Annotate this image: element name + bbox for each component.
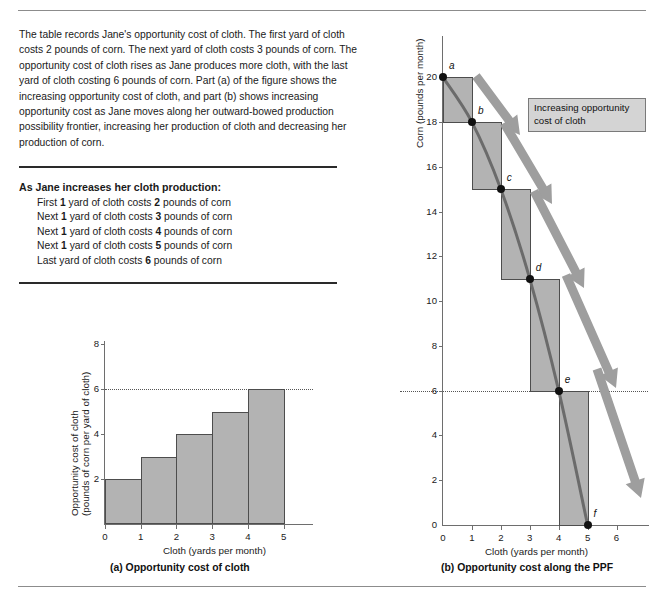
caption-chart-b: (b) Opportunity cost along the PPF [441,562,613,573]
chart-a-bar [105,479,142,524]
opportunity-cost-list: As Jane increases her cloth production: … [19,180,349,269]
divider-above-cost-list [19,166,337,168]
top-divider-rule [18,10,646,11]
chart-b-increasing-cost-arrow [530,189,585,288]
chart-a-bar [212,412,249,525]
cost-list-item: Next 1 yard of cloth costs 5 pounds of c… [19,239,349,254]
chart-a-y-tick-label: 8 [83,338,99,349]
bottom-divider-rule [18,586,646,587]
arrow-icon [530,189,585,288]
chart-b-increasing-cost-arrow [593,368,645,499]
chart-a-x-axis-title: Cloth (yards per month) [163,545,266,556]
chart-a-x-tick-label: 2 [166,531,186,542]
chart-a-x-tick [212,525,213,529]
caption-chart-a: (a) Opportunity cost of cloth [110,562,250,573]
chart-b-increasing-cost-arrow [562,273,618,388]
chart-a-x-axis [105,524,313,525]
chart-b-ppf-point [555,387,563,395]
chart-a-bar [176,434,213,524]
chart-a-y-axis-title-line2: (pounds of corn per yard of cloth) [80,372,91,516]
chart-a-x-tick [105,525,106,529]
chart-a-x-tick [141,525,142,529]
chart-a-opportunity-cost-bar-chart: 2468012345Cloth (yards per month)Opportu… [60,332,360,547]
chart-b-increasing-cost-arrow [500,121,552,204]
chart-b-ppf-point-label: d [536,262,542,273]
chart-a-x-tick-label: 5 [274,531,294,542]
cost-list-item: Next 1 yard of cloth costs 3 pounds of c… [19,210,349,225]
chart-b-y-axis-title: Corn (pounds per month) [414,39,425,148]
chart-b-ppf-point [526,275,534,283]
callout-line-2: cost of cloth [534,115,640,128]
arrow-icon [500,121,552,204]
chart-a-x-tick-label: 4 [238,531,258,542]
arrow-icon [593,368,645,499]
cost-list-rows: First 1 yard of cloth costs 2 pounds of … [19,196,349,269]
arrow-icon [472,73,520,135]
chart-b-ppf-point [584,521,592,529]
chart-b-increasing-cost-arrow [472,73,520,135]
chart-a-bar [248,389,285,524]
chart-b-ppf-point-label: f [594,508,597,519]
callout-line-1: Increasing opportunity [534,102,640,115]
divider-below-cost-list [19,282,337,284]
intro-paragraph: The table records Jane's opportunity cos… [19,27,357,150]
chart-a-x-tick [248,525,249,529]
chart-b-ppf-point-label: c [507,172,512,183]
increasing-cost-callout: Increasing opportunitycost of cloth [528,98,646,132]
cost-list-item: Last yard of cloth costs 6 pounds of cor… [19,254,349,269]
chart-a-x-tick [284,525,285,529]
cost-list-item: Next 1 yard of cloth costs 4 pounds of c… [19,225,349,240]
arrow-icon [562,273,618,388]
chart-b-ppf-point-label: a [449,60,455,71]
chart-a-x-tick-label: 1 [131,531,151,542]
cost-list-item: First 1 yard of cloth costs 2 pounds of … [19,196,349,211]
chart-a-plot-area: 2468012345Cloth (yards per month)Opportu… [60,332,360,547]
chart-a-y-tick [101,389,105,390]
chart-a-y-tick [101,344,105,345]
chart-a-x-tick [176,525,177,529]
chart-a-x-tick-label: 3 [202,531,222,542]
chart-b-plot-area: 024681012141618200123456abcdefIncreasing… [400,28,649,548]
cost-list-title: As Jane increases her cloth production: [19,180,349,195]
chart-a-y-tick [101,434,105,435]
chart-b-ppf-point-label: b [478,105,484,116]
chart-b-ppf-chart: 024681012141618200123456abcdefIncreasing… [400,28,649,548]
chart-a-x-tick-label: 0 [95,531,115,542]
chart-b-x-axis-title: Cloth (yards per month) [485,546,588,557]
chart-a-bar [141,457,178,525]
chart-b-ppf-point-label: e [565,374,571,385]
chart-a-y-axis-title-line1: Opportunity cost of cloth [69,410,80,516]
